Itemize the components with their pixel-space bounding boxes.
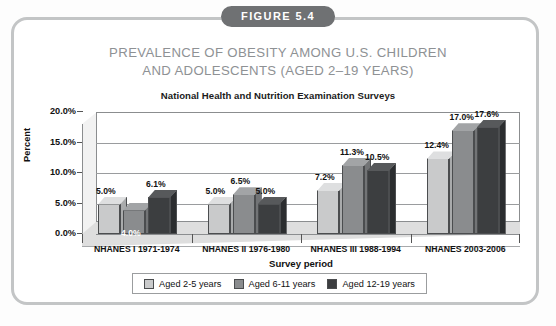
- x-category-label: NHANES I 1971-1974: [82, 244, 192, 254]
- y-tick-label: 10.0%: [30, 167, 76, 177]
- x-tick-mark: [82, 234, 83, 243]
- legend-item[interactable]: Aged 6-11 years: [234, 279, 316, 289]
- bar-front-face: [342, 165, 364, 234]
- bar-value-label: 17.6%: [475, 109, 499, 119]
- bar-front-face: [317, 190, 339, 234]
- y-tick-label: 5.0%: [30, 198, 76, 208]
- bar-value-label: 6.1%: [146, 179, 166, 189]
- bar-value-label: 11.3%: [340, 147, 364, 157]
- bar-front-face: [452, 130, 474, 234]
- bar-value-label: 5.0%: [206, 186, 226, 196]
- bar-value-label: 10.5%: [365, 152, 389, 162]
- bar-group: 12.4%17.0%17.6%: [427, 110, 537, 246]
- bar-side-face: [499, 120, 506, 234]
- bar-front-face: [98, 204, 120, 235]
- x-axis-title: Survey period: [82, 258, 520, 269]
- x-category-label: NHANES III 1988-1994: [301, 244, 411, 254]
- x-axis-category-labels: NHANES I 1971-1974NHANES II 1976-1980NHA…: [64, 244, 544, 258]
- figure-number-badge: FIGURE 5.4: [221, 6, 335, 27]
- bar-value-label: 6.5%: [231, 176, 251, 186]
- y-tick-label: 15.0%: [30, 137, 76, 147]
- bar-group: 7.2%11.3%10.5%: [317, 110, 427, 246]
- figure-title-line-2: AND ADOLESCENTS (AGED 2–19 YEARS): [0, 62, 556, 80]
- bar-front-face: [148, 197, 170, 234]
- chart-subtitle: National Health and Nutrition Examinatio…: [0, 90, 556, 101]
- bar-front-face: [258, 204, 280, 235]
- legend-swatch-icon: [234, 279, 244, 289]
- legend-label: Aged 12-19 years: [342, 279, 415, 289]
- bar-group: 5.0%4.0%6.1%: [98, 110, 208, 246]
- figure-container: FIGURE 5.4 PREVALENCE OF OBESITY AMONG U…: [0, 0, 556, 326]
- bar-value-label: 17.0%: [450, 112, 474, 122]
- bar-value-label: 7.2%: [315, 172, 335, 182]
- bar-front-face: [427, 158, 449, 234]
- legend-item[interactable]: Aged 2-5 years: [144, 279, 221, 289]
- chart-legend: Aged 2-5 yearsAged 6-11 yearsAged 12-19 …: [132, 273, 427, 294]
- legend-item[interactable]: Aged 12-19 years: [327, 279, 415, 289]
- bar-value-label: 5.0%: [256, 186, 276, 196]
- chart-bars: 5.0%4.0%6.1%5.0%6.5%5.0%7.2%11.3%10.5%12…: [82, 112, 520, 248]
- y-axis-title: Percent: [22, 148, 32, 162]
- bar-front-face: [233, 194, 255, 234]
- x-tick-mark: [192, 234, 193, 243]
- x-tick-mark: [301, 234, 302, 243]
- bar-front-face: [477, 127, 499, 234]
- x-tick-mark: [411, 234, 412, 243]
- legend-label: Aged 2-5 years: [159, 279, 221, 289]
- bar-front-face: [367, 170, 389, 234]
- bar-value-label: 12.4%: [425, 140, 449, 150]
- x-category-label: NHANES II 1976-1980: [192, 244, 302, 254]
- bar-value-label: 5.0%: [96, 186, 116, 196]
- figure-title: PREVALENCE OF OBESITY AMONG U.S. CHILDRE…: [0, 44, 556, 80]
- bar-side-face: [389, 163, 396, 234]
- legend-swatch-icon: [144, 279, 154, 289]
- x-category-label: NHANES 2003-2006: [411, 244, 521, 254]
- chart-plot-area: Percent 0.0%5.0%10.0%15.0%20.0% 5.0%4.0%…: [24, 108, 532, 268]
- bar-group: 5.0%6.5%5.0%: [208, 110, 318, 246]
- legend-swatch-icon: [327, 279, 337, 289]
- legend-label: Aged 6-11 years: [249, 279, 316, 289]
- bar-front-face: [208, 204, 230, 235]
- x-axis-ticks: [82, 234, 520, 244]
- y-tick-label: 0.0%: [30, 228, 76, 238]
- figure-title-line-1: PREVALENCE OF OBESITY AMONG U.S. CHILDRE…: [0, 44, 556, 62]
- x-tick-mark: [519, 234, 520, 243]
- y-tick-label: 20.0%: [30, 106, 76, 116]
- chart-axes: 5.0%4.0%6.1%5.0%6.5%5.0%7.2%11.3%10.5%12…: [82, 112, 520, 234]
